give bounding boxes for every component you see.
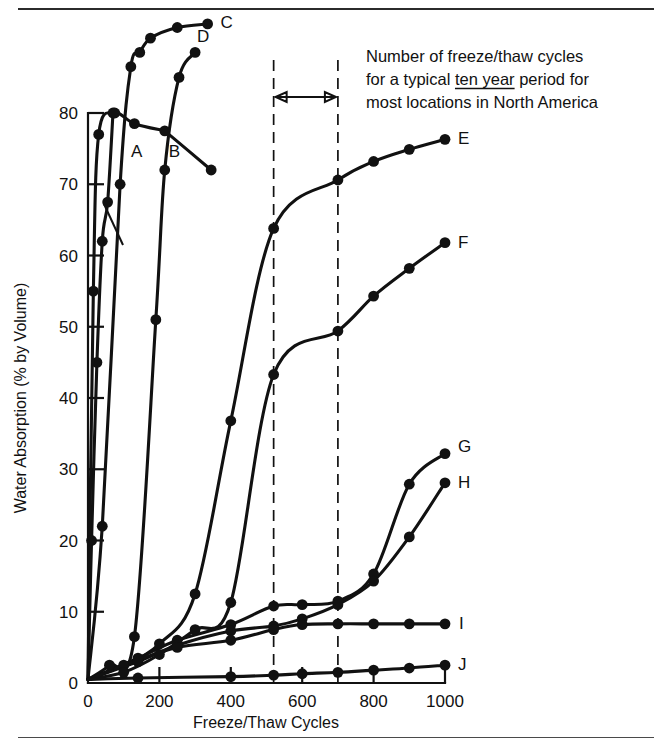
- data-point: [159, 165, 170, 176]
- data-point: [440, 134, 451, 145]
- series-curve-c: [88, 24, 208, 680]
- y-axis-tick-labels: 01020304050607080: [59, 104, 78, 693]
- data-point: [333, 599, 344, 610]
- data-point: [404, 144, 415, 155]
- annotation-line-2-pre: for a typical: [366, 70, 455, 88]
- series-label-i: I: [459, 614, 464, 633]
- data-point: [268, 369, 279, 380]
- data-point: [268, 601, 279, 612]
- data-point: [206, 165, 217, 176]
- data-series-curves: [88, 24, 445, 680]
- data-point: [333, 175, 344, 186]
- series-curve-i: [88, 624, 445, 680]
- data-point: [333, 667, 344, 678]
- data-point: [368, 156, 379, 167]
- series-label-j: J: [458, 655, 467, 674]
- data-point: [88, 286, 99, 297]
- data-point: [104, 660, 115, 671]
- ten-year-span-marker: [274, 60, 338, 683]
- data-point: [190, 624, 201, 635]
- x-tick-label: 800: [359, 692, 387, 711]
- data-point: [368, 576, 379, 587]
- y-tick-label: 50: [59, 318, 78, 337]
- series-label-d: D: [197, 27, 209, 46]
- x-axis-title: Freeze/Thaw Cycles: [193, 714, 339, 731]
- x-tick-label: 0: [83, 692, 92, 711]
- series-curve-h: [88, 483, 445, 680]
- data-point: [268, 624, 279, 635]
- data-point: [172, 642, 183, 653]
- double-headed-arrow: [276, 92, 336, 102]
- y-tick-label: 60: [59, 247, 78, 266]
- data-point: [368, 618, 379, 629]
- data-point: [154, 638, 165, 649]
- data-point: [172, 22, 183, 33]
- data-point: [404, 263, 415, 274]
- data-point: [440, 237, 451, 248]
- data-point: [333, 326, 344, 337]
- data-point: [133, 673, 144, 684]
- annotation-line-1: Number of freeze/thaw cycles: [366, 47, 583, 65]
- series-label-a: A: [131, 142, 143, 161]
- data-point: [109, 108, 120, 119]
- data-point: [225, 597, 236, 608]
- series-label-b: B: [169, 142, 180, 161]
- annotation-line-2-underlined: ten year: [455, 70, 515, 88]
- series-label-e: E: [458, 129, 469, 148]
- data-point: [145, 33, 156, 44]
- data-point: [404, 479, 415, 490]
- data-point: [125, 61, 136, 72]
- y-tick-label: 10: [59, 603, 78, 622]
- data-point: [297, 599, 308, 610]
- data-point: [159, 125, 170, 136]
- data-point: [404, 532, 415, 543]
- y-tick-label: 20: [59, 532, 78, 551]
- data-point: [225, 635, 236, 646]
- data-point: [440, 477, 451, 488]
- x-tick-label: 400: [217, 692, 245, 711]
- data-point: [440, 660, 451, 671]
- x-tick-label: 200: [145, 692, 173, 711]
- data-point: [297, 668, 308, 679]
- data-point: [368, 291, 379, 302]
- series-label-h: H: [458, 473, 470, 492]
- chart-plot-area: 01020304050607080 02004006008001000 ABCD…: [0, 0, 672, 751]
- data-point: [129, 631, 140, 642]
- y-axis-title: Water Absorption (% by Volume): [12, 283, 29, 514]
- data-point: [440, 618, 451, 629]
- data-point: [118, 667, 129, 678]
- data-point: [440, 448, 451, 459]
- data-point: [93, 129, 104, 140]
- data-point: [404, 663, 415, 674]
- data-point: [225, 671, 236, 682]
- series-curve-e: [88, 139, 445, 679]
- data-point: [174, 72, 185, 83]
- data-point: [268, 223, 279, 234]
- y-tick-label: 30: [59, 460, 78, 479]
- x-tick-label: 1000: [426, 692, 464, 711]
- data-point: [134, 47, 145, 58]
- data-point: [133, 655, 144, 666]
- x-tick-label: 600: [288, 692, 316, 711]
- data-point: [129, 118, 140, 129]
- data-point: [97, 521, 108, 532]
- data-point: [92, 357, 103, 368]
- annotation-line-2-post: period for: [515, 70, 590, 88]
- data-point: [225, 415, 236, 426]
- data-point: [190, 47, 201, 58]
- y-tick-label: 80: [59, 104, 78, 123]
- data-point: [86, 535, 97, 546]
- annotation-note: Number of freeze/thaw cycles for a typic…: [366, 47, 599, 111]
- data-point: [115, 179, 126, 190]
- data-point: [297, 619, 308, 630]
- data-point: [404, 618, 415, 629]
- annotation-line-2: for a typical ten year period for: [366, 70, 589, 88]
- series-curve-b: [88, 113, 165, 680]
- data-point: [225, 626, 236, 637]
- y-tick-label: 40: [59, 389, 78, 408]
- x-axis-tick-labels: 02004006008001000: [83, 692, 464, 711]
- data-point: [190, 589, 201, 600]
- data-point: [368, 665, 379, 676]
- y-tick-label: 0: [69, 674, 78, 693]
- series-label-f: F: [458, 233, 468, 252]
